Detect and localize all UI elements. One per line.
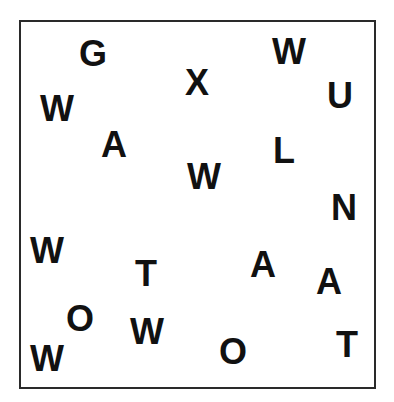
letter-9: W — [30, 233, 64, 269]
letter-12: A — [316, 264, 342, 300]
letter-15: W — [30, 341, 64, 377]
letter-7: W — [187, 159, 221, 195]
letter-8: N — [331, 190, 357, 226]
letter-3: U — [327, 78, 353, 114]
letter-17: T — [336, 327, 358, 363]
letter-6: L — [273, 133, 295, 169]
letter-11: A — [250, 247, 276, 283]
letter-5: A — [101, 127, 127, 163]
letter-0: G — [79, 36, 107, 72]
letter-2: W — [272, 34, 306, 70]
letter-16: O — [219, 334, 247, 370]
letter-14: W — [130, 314, 164, 350]
letter-13: O — [66, 301, 94, 337]
letter-1: X — [185, 65, 209, 101]
letter-10: T — [135, 256, 157, 292]
letter-4: W — [40, 91, 74, 127]
